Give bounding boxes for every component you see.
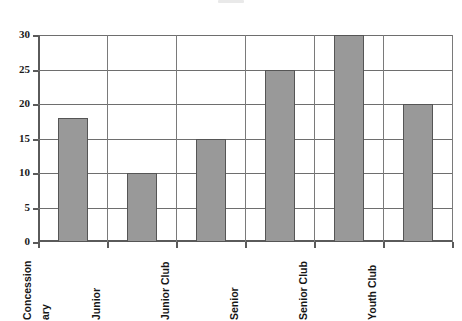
- x-tick-label: Concession ary: [21, 260, 51, 320]
- x-tick-label-rotator: Youth Club: [362, 252, 402, 320]
- x-tick-label: Junior Club: [159, 262, 171, 320]
- x-tick-label: Youth Club: [366, 265, 378, 320]
- y-tick-label: 20: [2, 98, 30, 109]
- chart-title-remnant: [218, 0, 244, 3]
- x-tick-label: Senior Club: [297, 261, 309, 320]
- x-tick-label: Senior: [228, 287, 240, 320]
- bar: [265, 70, 295, 243]
- x-tick-mark: [107, 242, 109, 248]
- y-tick-label: 5: [2, 202, 30, 213]
- y-tick-label: 25: [2, 64, 30, 75]
- x-tick-label-rotator: Senior Club: [293, 252, 333, 320]
- y-tick-label: 15: [2, 133, 30, 144]
- bar: [403, 104, 433, 242]
- y-tick-label: 0: [2, 236, 30, 247]
- x-tick-label-rotator: Junior Club: [155, 252, 195, 320]
- x-tick-mark: [245, 242, 247, 248]
- bar: [127, 173, 157, 242]
- x-tick-label-rotator: Junior: [86, 252, 126, 320]
- x-tick-mark: [452, 242, 454, 248]
- bar-chart: 051015202530 Concession aryJuniorJunior …: [0, 0, 462, 321]
- x-tick-mark: [38, 242, 40, 248]
- x-tick-label: Junior: [90, 288, 102, 320]
- plot-area: [38, 35, 452, 242]
- bar: [196, 139, 226, 243]
- category-separator-2: [176, 35, 177, 242]
- y-tick-label: 30: [2, 29, 30, 40]
- y-tick-label: 10: [2, 167, 30, 178]
- bar: [58, 118, 88, 242]
- x-tick-label-rotator: Senior: [224, 252, 264, 320]
- x-tick-mark: [176, 242, 178, 248]
- x-tick-label-rotator: Concession ary: [17, 252, 57, 320]
- category-separator-4: [314, 35, 315, 242]
- category-separator-5: [383, 35, 384, 242]
- category-separator-1: [107, 35, 108, 242]
- x-tick-mark: [383, 242, 385, 248]
- x-tick-mark: [314, 242, 316, 248]
- plot-right-edge: [452, 35, 453, 242]
- x-tick-label-group: Youth Club: [402, 252, 442, 320]
- category-separator-3: [245, 35, 246, 242]
- bar: [334, 35, 364, 242]
